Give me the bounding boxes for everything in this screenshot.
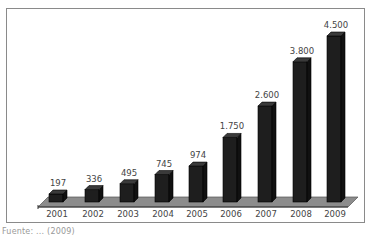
bar-2002 — [85, 186, 103, 202]
x-axis-label: 2005 — [186, 209, 208, 219]
value-label: 974 — [190, 150, 206, 160]
value-label: 197 — [50, 178, 66, 188]
x-axis-label: 2002 — [82, 209, 104, 219]
bar-chart: 1973364957459741.7502.6003.8004.500 2001… — [0, 0, 371, 236]
x-axis-label: 2008 — [290, 209, 312, 219]
x-axis-label: 2003 — [117, 209, 139, 219]
value-label: 4.500 — [324, 20, 348, 30]
x-axis-label: 2006 — [220, 209, 242, 219]
bar-2009 — [327, 32, 345, 202]
value-label: 1.750 — [220, 121, 244, 131]
x-axis-label: 2001 — [46, 209, 68, 219]
x-axis-labels: 200120022003200420052006200720082009 — [46, 209, 346, 219]
bar-2006 — [223, 133, 241, 202]
value-label: 495 — [121, 168, 137, 178]
bar-2005 — [189, 162, 207, 202]
source-caption: Fuente: ... (2009) — [2, 227, 75, 236]
bar-2008 — [293, 58, 311, 202]
value-label: 2.600 — [255, 90, 279, 100]
x-axis-label: 2009 — [324, 209, 346, 219]
bar-2003 — [120, 180, 138, 202]
value-label: 336 — [86, 174, 102, 184]
x-axis-label: 2007 — [255, 209, 277, 219]
bar-2007 — [258, 102, 276, 202]
bar-2004 — [155, 171, 173, 202]
value-label: 745 — [156, 159, 172, 169]
bar-2001 — [49, 190, 67, 202]
x-axis-label: 2004 — [152, 209, 174, 219]
value-label: 3.800 — [290, 46, 314, 56]
